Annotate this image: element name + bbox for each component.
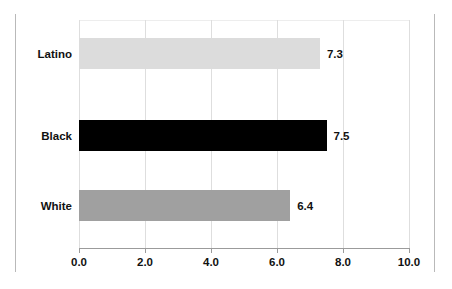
x-tick-label-10: 10.0 — [386, 255, 432, 269]
bar-latino[interactable] — [79, 38, 320, 69]
x-axis-tick-0 — [79, 249, 80, 253]
category-label-latino: Latino — [10, 48, 72, 60]
category-label-white: White — [10, 200, 72, 212]
x-axis-tick-labels: 0.0 2.0 4.0 6.0 8.0 10.0 — [79, 255, 409, 271]
value-label-latino: 7.3 — [327, 48, 343, 60]
x-axis-tick-10 — [409, 249, 410, 253]
gridline-10 — [409, 20, 410, 248]
x-axis-tick-4 — [211, 249, 212, 253]
value-label-black: 7.5 — [334, 130, 350, 142]
x-axis-tick-2 — [145, 249, 146, 253]
value-label-white: 6.4 — [297, 200, 313, 212]
bar-black[interactable] — [79, 120, 327, 151]
plot-area — [79, 20, 409, 248]
plot-top-edge — [79, 20, 409, 21]
x-axis-line — [79, 248, 410, 249]
x-tick-label-2: 2.0 — [122, 255, 168, 269]
bar-chart-figure: 7.3 7.5 6.4 Latino Black White 0.0 2.0 4… — [0, 0, 452, 289]
x-tick-label-0: 0.0 — [56, 255, 102, 269]
x-axis-tick-6 — [277, 249, 278, 253]
clipped-chart-title — [15, 0, 434, 11]
chart-border-right — [434, 14, 435, 272]
bar-white[interactable] — [79, 190, 290, 221]
x-tick-label-4: 4.0 — [188, 255, 234, 269]
category-label-black: Black — [10, 130, 72, 142]
x-axis-tick-8 — [343, 249, 344, 253]
x-tick-label-8: 8.0 — [320, 255, 366, 269]
category-axis-labels: Latino Black White — [8, 20, 72, 248]
x-tick-label-6: 6.0 — [254, 255, 300, 269]
